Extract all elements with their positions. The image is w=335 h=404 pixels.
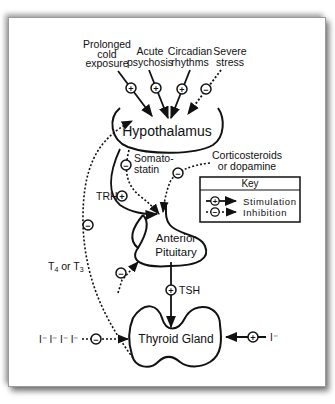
pituitary-label-1: Anterior xyxy=(156,232,196,244)
plus-icon: + xyxy=(151,83,161,94)
corticosteroids-label-2: or dopamine xyxy=(218,160,277,172)
svg-text:+: + xyxy=(153,84,158,94)
minus-icon: − xyxy=(211,208,219,217)
legend-inhibition-label: Inhibition xyxy=(243,207,287,218)
minus-icon: − xyxy=(83,220,93,231)
input-label-psychosis-2: psychosis xyxy=(127,56,173,68)
t4-t3-label: T4 or T3 xyxy=(48,260,84,273)
input-signs: + + + − xyxy=(126,83,211,95)
pituitary-label-2: Pituitary xyxy=(155,246,197,258)
svg-text:+: + xyxy=(213,197,218,206)
input-label-cold-3: exposure xyxy=(85,57,128,69)
svg-text:+: + xyxy=(128,84,133,94)
svg-text:−: − xyxy=(213,208,218,217)
input-label-stress-2: stress xyxy=(216,56,244,68)
input-labels: Prolonged cold exposure Acute psychosis … xyxy=(83,38,247,69)
feedback-arrow-hypothalamus xyxy=(83,121,133,358)
iodide-excess-label: I⁻ I⁻ I⁻ I⁻ xyxy=(39,334,78,345)
svg-text:−: − xyxy=(203,85,208,95)
svg-text:+: + xyxy=(179,85,184,95)
plus-icon: + xyxy=(211,197,219,206)
thyroid-gland-node: Thyroid Gland xyxy=(129,306,221,366)
minus-icon: − xyxy=(201,84,211,95)
thyroid-regulation-diagram: Prolonged cold exposure Acute psychosis … xyxy=(0,0,335,404)
legend-key: Key + Stimulation − Inhibition xyxy=(200,177,300,222)
input-label-circadian-2: rhythms xyxy=(171,56,208,68)
trh-label: TRH xyxy=(96,190,118,202)
minus-icon: − xyxy=(121,160,131,171)
plus-icon: + xyxy=(177,84,187,95)
svg-text:+: + xyxy=(119,192,124,202)
plus-icon: + xyxy=(117,191,127,202)
plus-icon: + xyxy=(248,332,258,343)
svg-text:+: + xyxy=(250,333,255,343)
plus-icon: + xyxy=(166,285,176,296)
svg-text:+: + xyxy=(168,286,173,296)
legend-title: Key xyxy=(241,178,258,189)
svg-text:−: − xyxy=(123,161,128,171)
hypothalamus-label: Hypothalamus xyxy=(122,123,212,139)
minus-icon: − xyxy=(91,334,101,345)
iodide-label: I⁻ xyxy=(270,332,278,343)
arrow-psychosis xyxy=(149,70,168,118)
minus-icon: − xyxy=(173,168,183,179)
svg-text:−: − xyxy=(175,169,180,179)
svg-text:−: − xyxy=(93,335,98,345)
svg-text:−: − xyxy=(118,269,123,279)
tsh-label: TSH xyxy=(179,284,200,296)
somatostatin-label-2: statin xyxy=(134,163,159,175)
legend-stimulation-label: Stimulation xyxy=(243,196,297,207)
svg-text:−: − xyxy=(85,221,90,231)
thyroid-label: Thyroid Gland xyxy=(138,332,213,346)
plus-icon: + xyxy=(126,83,136,94)
minus-icon: − xyxy=(116,268,126,279)
arrow-cold xyxy=(118,71,152,116)
